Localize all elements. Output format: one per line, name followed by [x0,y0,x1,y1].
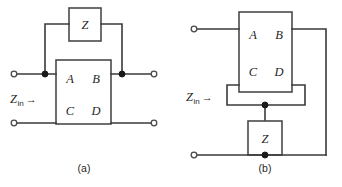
panel-a-param-b: B [92,72,100,86]
panel-a-abcd-box [56,60,111,124]
panel-b-junction-dot-bottom [262,152,268,158]
circuit-diagram-svg: Z A B C D [0,0,342,187]
panel-b-abcd-box [239,12,292,92]
panel-a-junction-dot-right [119,71,125,77]
panel-b-param-d: D [273,65,283,79]
panel-a-param-c: C [66,104,75,118]
panel-a-terminal-right-bottom [151,120,157,126]
panel-b-z-label: Z [262,132,270,146]
panel-a-param-d: D [90,104,100,118]
panel-b-terminal-left-top [191,26,197,32]
panel-a-junction-dot-left [42,71,48,77]
panel-b-zin-label: Zin→ [186,90,213,106]
panel-a-param-a: A [65,72,74,86]
panel-a-zin-sub: in [17,99,23,108]
panel-a-caption: (a) [78,162,91,174]
panel-a-terminal-left-bottom [11,120,17,126]
panel-b-param-b: B [275,28,283,42]
panel-b-zin-arrow: → [202,91,213,103]
panel-b-param-c: C [249,65,258,79]
panel-b-param-a: A [248,28,257,42]
panel-b-right-feedback-wire [292,29,326,155]
panel-a: Z A B C D [10,8,157,174]
panel-b-junction-dot-top [262,102,268,108]
panel-a-z-label: Z [82,18,90,32]
panel-a-zin-arrow: → [26,93,37,105]
panel-a-terminal-left-top [11,71,17,77]
figure-root: Z A B C D [0,0,342,187]
panel-b: A B C D Z [186,12,326,174]
panel-a-terminal-right-top [151,71,157,77]
panel-a-zin-label: Zin→ [10,92,37,108]
panel-b-terminal-left-bottom [191,152,197,158]
panel-b-caption: (b) [259,162,272,174]
panel-b-zin-sub: in [193,97,199,106]
